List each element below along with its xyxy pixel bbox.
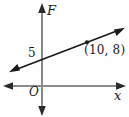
y-intercept-label: 5 [28, 47, 36, 59]
y-axis-arrow-down-icon [38, 106, 46, 116]
line-arrow-upper-right-icon [114, 28, 125, 36]
line-arrow-lower-left-icon [9, 64, 20, 72]
y-axis-label: F [47, 4, 56, 17]
coordinate-graph-figure: F x O 5 (10, 8) [0, 0, 129, 117]
y-axis-arrow-up-icon [38, 3, 46, 13]
origin-label: O [29, 86, 39, 98]
x-axis-arrow-left-icon [3, 82, 13, 90]
x-axis [3, 82, 126, 90]
graph-canvas [0, 0, 129, 117]
x-axis-label: x [114, 89, 121, 102]
point-coordinate-label: (10, 8) [84, 44, 125, 56]
